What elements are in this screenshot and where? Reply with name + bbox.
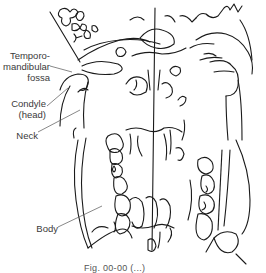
label-body: Body [2, 223, 58, 234]
label-neck: Neck [2, 130, 38, 141]
label-temporomandibular-fossa: Temporo- mandibular fossa [2, 50, 50, 83]
figure-caption: Fig. 00-00 (...) [84, 263, 145, 273]
label-condyle-head: Condyle (head) [2, 98, 46, 120]
leader-condyle [47, 88, 68, 106]
leader-body [58, 206, 102, 227]
leader-tmj-fossa [50, 66, 72, 72]
